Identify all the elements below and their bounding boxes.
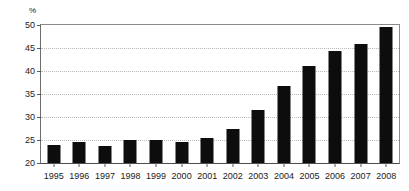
bar-group: 2008 bbox=[373, 25, 399, 163]
bar bbox=[380, 27, 393, 163]
bar bbox=[329, 51, 342, 163]
x-axis-tick-label: 1999 bbox=[146, 171, 166, 181]
y-axis-tick-label: 20 bbox=[25, 159, 35, 168]
x-axis-tick-mark bbox=[130, 163, 131, 167]
x-axis-tick-label: 2000 bbox=[172, 171, 192, 181]
x-axis-tick-label: 2006 bbox=[325, 171, 345, 181]
bar bbox=[277, 86, 290, 163]
x-axis-tick-mark bbox=[232, 163, 233, 167]
x-axis-tick-label: 2007 bbox=[351, 171, 371, 181]
y-axis-tick-mark bbox=[37, 163, 41, 164]
bar-group: 1995 bbox=[41, 25, 67, 163]
x-axis-tick-mark bbox=[335, 163, 336, 167]
y-axis-tick-label: 35 bbox=[25, 90, 35, 99]
x-axis-tick-mark bbox=[104, 163, 105, 167]
x-axis-tick-label: 1996 bbox=[69, 171, 89, 181]
x-axis-tick-mark bbox=[53, 163, 54, 167]
x-axis-tick-label: 2002 bbox=[223, 171, 243, 181]
x-axis-tick-label: 2001 bbox=[197, 171, 217, 181]
bar bbox=[98, 146, 111, 163]
x-axis-tick-mark bbox=[207, 163, 208, 167]
y-axis-tick-label: 30 bbox=[25, 113, 35, 122]
bar-group: 2001 bbox=[194, 25, 220, 163]
bar-group: 2005 bbox=[297, 25, 323, 163]
bar-group: 1999 bbox=[143, 25, 169, 163]
x-axis-tick-mark bbox=[360, 163, 361, 167]
bars-layer: 1995199619971998199920002001200220032004… bbox=[41, 25, 399, 163]
x-axis-tick-label: 2004 bbox=[274, 171, 294, 181]
y-axis-tick-label: 25 bbox=[25, 136, 35, 145]
bar-group: 2000 bbox=[169, 25, 195, 163]
x-axis-tick-label: 2008 bbox=[376, 171, 396, 181]
y-axis-tick-label: 40 bbox=[25, 67, 35, 76]
y-axis-tick-label: 45 bbox=[25, 44, 35, 53]
x-axis-tick-mark bbox=[181, 163, 182, 167]
bar bbox=[175, 142, 188, 163]
bar-group: 1997 bbox=[92, 25, 118, 163]
x-axis-tick-label: 1995 bbox=[44, 171, 64, 181]
bar bbox=[150, 140, 163, 163]
bar bbox=[47, 145, 60, 163]
bar bbox=[303, 66, 316, 163]
bar-chart: % 20253035404550 19951996199719981999200… bbox=[0, 0, 409, 191]
x-axis-tick-label: 2005 bbox=[299, 171, 319, 181]
x-axis-tick-label: 2003 bbox=[248, 171, 268, 181]
x-axis-tick-mark bbox=[79, 163, 80, 167]
bar-group: 2007 bbox=[348, 25, 374, 163]
x-axis-tick-mark bbox=[283, 163, 284, 167]
bar-group: 1996 bbox=[67, 25, 93, 163]
bar-group: 2003 bbox=[246, 25, 272, 163]
bar-group: 2002 bbox=[220, 25, 246, 163]
bar bbox=[201, 138, 214, 163]
x-axis-tick-mark bbox=[309, 163, 310, 167]
x-axis-tick-mark bbox=[156, 163, 157, 167]
plot-area: 20253035404550 1995199619971998199920002… bbox=[40, 24, 400, 164]
bar bbox=[124, 140, 137, 163]
bar bbox=[226, 129, 239, 164]
bar bbox=[252, 110, 265, 163]
bar bbox=[354, 44, 367, 163]
x-axis-tick-mark bbox=[258, 163, 259, 167]
bar-group: 1998 bbox=[118, 25, 144, 163]
bar-group: 2006 bbox=[322, 25, 348, 163]
y-axis-tick-label: 50 bbox=[25, 21, 35, 30]
x-axis-tick-label: 1997 bbox=[95, 171, 115, 181]
bar-group: 2004 bbox=[271, 25, 297, 163]
y-axis-unit-label: % bbox=[29, 6, 36, 15]
x-axis-tick-mark bbox=[386, 163, 387, 167]
x-axis-tick-label: 1998 bbox=[120, 171, 140, 181]
bar bbox=[73, 142, 86, 163]
